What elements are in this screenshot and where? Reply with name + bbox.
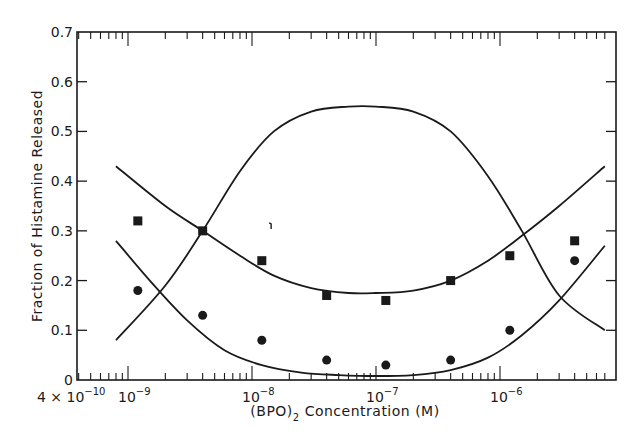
histamine-release-chart: 00.10.20.30.40.50.60.7 4 × 10−1010−910−8…: [0, 0, 642, 442]
data-point-square: [133, 216, 142, 225]
y-tick-label: 0.6: [51, 74, 73, 90]
x-tick-label: 4 × 10−10: [37, 386, 105, 405]
data-point-square: [446, 276, 455, 285]
y-axis-ticks: 00.10.20.30.40.50.60.7: [51, 24, 616, 388]
x-tick-exponent: −7: [384, 386, 399, 397]
x-axis-minor-ticks: [79, 32, 605, 380]
data-point-square: [570, 236, 579, 245]
x-tick-exponent: −10: [84, 386, 105, 397]
y-tick-label: 0: [64, 372, 73, 388]
data-point-circle: [198, 311, 207, 320]
x-tick-label: 10−6: [490, 386, 523, 405]
x-tick-base: 4 × 10: [37, 389, 84, 405]
plot-frame: [77, 32, 616, 380]
x-tick-base: 10: [490, 389, 508, 405]
data-point-circle: [257, 336, 266, 345]
data-point-circle: [322, 356, 331, 365]
x-axis-title-rest: Concentration (M): [300, 403, 440, 419]
y-tick-label: 0.1: [51, 322, 73, 338]
y-tick-label: 0.3: [51, 223, 73, 239]
data-point-circle: [133, 286, 142, 295]
y-axis-title: Fraction of Histamine Released: [29, 90, 45, 322]
x-tick-exponent: −8: [260, 386, 275, 397]
fitted-curves: [116, 106, 605, 376]
x-axis-title: (BPO)2 Concentration (M): [250, 403, 439, 423]
x-axis-title-subscript: 2: [293, 412, 300, 423]
y-tick-label: 0.2: [51, 273, 73, 289]
plot-border: [77, 32, 616, 380]
data-point-square: [505, 251, 514, 260]
x-tick-exponent: −9: [136, 386, 151, 397]
y-tick-label: 0.4: [51, 173, 73, 189]
upper-u-curve: [116, 166, 605, 293]
stray-mark: [269, 223, 271, 229]
data-point-circle: [505, 326, 514, 335]
y-tick-label: 0.5: [51, 123, 73, 139]
lower-u-curve: [116, 241, 605, 376]
y-tick-label: 0.7: [51, 24, 73, 40]
x-axis-title-main: (BPO): [250, 403, 293, 419]
x-tick-exponent: −6: [508, 386, 523, 397]
data-point-circle: [381, 361, 390, 370]
data-point-circle: [446, 356, 455, 365]
stray-mark-glyph: [269, 223, 271, 229]
x-tick-label: 10−9: [118, 386, 151, 405]
x-tick-base: 10: [118, 389, 136, 405]
data-point-square: [322, 291, 331, 300]
data-point-square: [257, 256, 266, 265]
data-point-circle: [570, 256, 579, 265]
data-point-square: [198, 226, 207, 235]
data-point-square: [381, 296, 390, 305]
